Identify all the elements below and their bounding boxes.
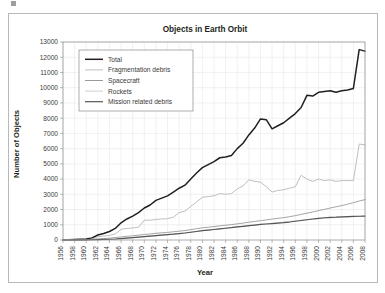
x-tick-label: 1996: [289, 246, 296, 261]
x-tick-label: 1984: [220, 246, 227, 261]
x-tick-label: 1962: [92, 246, 99, 261]
x-tick-label: 1964: [103, 246, 110, 261]
x-axis-title: Year: [197, 268, 213, 277]
y-tick-label: 10000: [40, 84, 59, 91]
y-tick-label: 0: [54, 236, 58, 243]
figure-frame: 0100020003000400050006000700080009000100…: [8, 13, 378, 283]
y-tick-label: 12000: [40, 54, 59, 61]
legend-label-fragmentation-debris: Fragmentation debris: [108, 66, 171, 74]
x-tick-label: 1982: [208, 246, 215, 261]
x-tick-label: 2008: [359, 246, 366, 261]
x-tick-label: 1988: [243, 246, 250, 261]
y-tick-label: 7000: [43, 130, 58, 137]
legend-label-total: Total: [108, 56, 122, 63]
y-tick-label: 5000: [43, 160, 58, 167]
x-tick-label: 1968: [127, 246, 134, 261]
chart-title: Objects in Earth Orbit: [163, 25, 248, 34]
x-tick-label: 2002: [324, 246, 331, 261]
x-tick-label: 1994: [278, 246, 285, 261]
x-tick-label: 1986: [231, 246, 238, 261]
x-tick-label: 1966: [115, 246, 122, 261]
x-tick-label: 1972: [150, 246, 157, 261]
y-tick-label: 2000: [43, 206, 58, 213]
x-tick-label: 1970: [138, 246, 145, 261]
x-tick-label: 1990: [254, 246, 261, 261]
legend-label-mission-related-debris: Mission related debris: [108, 98, 173, 105]
y-tick-label: 8000: [43, 115, 58, 122]
y-tick-label: 9000: [43, 99, 58, 106]
x-tick-label: 1992: [266, 246, 273, 261]
y-tick-label: 11000: [40, 69, 58, 76]
x-tick-label: 2006: [347, 246, 354, 261]
x-tick-label: 1958: [69, 246, 76, 261]
y-tick-label: 1000: [43, 221, 58, 228]
x-tick-label: 1978: [185, 246, 192, 261]
y-axis-title: Number of Objects: [12, 110, 21, 178]
y-tick-label: 6000: [43, 145, 58, 152]
x-tick-label: 1960: [80, 246, 87, 261]
x-tick-label: 1998: [301, 246, 308, 261]
objects-in-earth-orbit-chart: 0100020003000400050006000700080009000100…: [9, 14, 377, 282]
x-tick-label: 1980: [196, 246, 203, 261]
chart-legend: TotalFragmentation debrisSpacecraftRocke…: [79, 50, 193, 111]
x-tick-label: 2004: [336, 246, 343, 261]
legend-label-spacecraft: Spacecraft: [108, 77, 140, 85]
x-tick-label: 1974: [162, 246, 169, 261]
x-tick-label: 2000: [313, 246, 320, 261]
y-tick-label: 13000: [40, 38, 59, 45]
y-tick-label: 3000: [43, 191, 58, 198]
x-tick-label: 1956: [57, 246, 64, 261]
legend-label-rockets: Rockets: [108, 88, 133, 95]
x-tick-label: 1976: [173, 246, 180, 261]
stray-artifact-mark: [11, 1, 16, 6]
y-tick-label: 4000: [43, 175, 58, 182]
